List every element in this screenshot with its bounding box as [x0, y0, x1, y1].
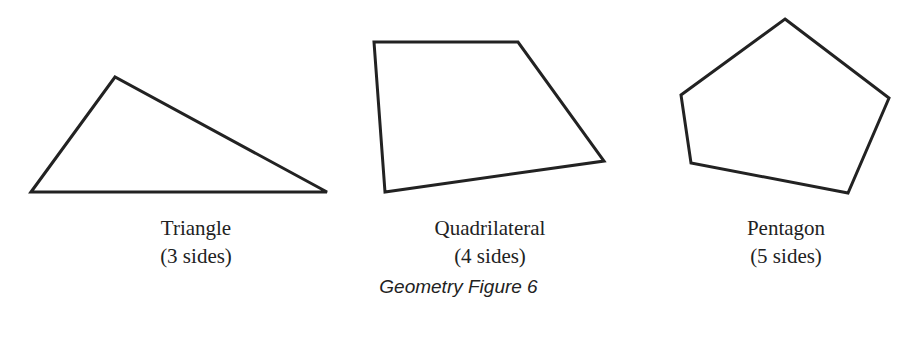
pentagon-name: Pentagon — [686, 214, 886, 242]
quadrilateral-name: Quadrilateral — [390, 214, 590, 242]
triangle-sides: (3 sides) — [96, 242, 296, 270]
quadrilateral-sides: (4 sides) — [390, 242, 590, 270]
pentagon-label-group: Pentagon (5 sides) — [686, 214, 886, 270]
triangle-shape — [31, 77, 327, 192]
pentagon-sides: (5 sides) — [686, 242, 886, 270]
quadrilateral-shape — [374, 42, 604, 192]
pentagon-shape — [681, 19, 889, 193]
triangle-name: Triangle — [96, 214, 296, 242]
triangle-label-group: Triangle (3 sides) — [96, 214, 296, 270]
figure-caption: Geometry Figure 6 — [0, 276, 917, 298]
quadrilateral-label-group: Quadrilateral (4 sides) — [390, 214, 590, 270]
